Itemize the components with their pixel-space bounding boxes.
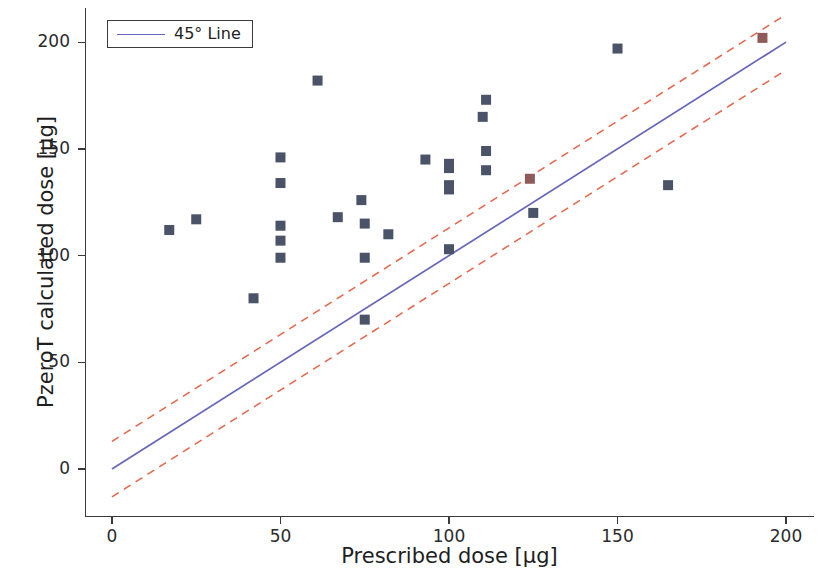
x-tick-label: 0: [77, 528, 147, 545]
data-point-marker: [528, 208, 538, 218]
data-point-marker: [360, 219, 370, 229]
data-point-marker: [164, 225, 174, 235]
data-point-marker: [444, 163, 454, 173]
x-axis-label: Prescribed dose [µg]: [85, 544, 814, 568]
data-point-marker: [275, 253, 285, 263]
y-tick-mark: [78, 362, 85, 363]
x-tick-label: 200: [751, 528, 818, 545]
data-point-marker: [333, 212, 343, 222]
data-point-marker: [444, 184, 454, 194]
data-point-marker: [275, 236, 285, 246]
trend-lines-group: [112, 14, 786, 496]
legend-line-swatch: [117, 34, 165, 35]
legend-box: 45° Line: [107, 20, 253, 48]
data-point-marker: [383, 229, 393, 239]
data-point-marker: [360, 315, 370, 325]
legend-item-label: 45° Line: [174, 26, 241, 42]
scatter-chart-figure: 050100150200 050100150200 PzeroT calcula…: [0, 0, 818, 569]
y-tick-mark: [78, 255, 85, 256]
data-point-marker: [249, 293, 259, 303]
y-tick-mark: [78, 148, 85, 149]
x-tick-mark: [111, 517, 112, 524]
data-point-marker: [275, 152, 285, 162]
data-points-group: [164, 33, 767, 325]
y-axis-spine: [85, 8, 86, 517]
tolerance-band-line: [112, 70, 786, 497]
identity-line: [112, 42, 786, 469]
data-point-marker: [757, 33, 767, 43]
x-tick-label: 150: [583, 528, 653, 545]
data-point-marker: [481, 95, 491, 105]
y-tick-mark: [78, 42, 85, 43]
data-point-marker: [313, 76, 323, 86]
x-tick-mark: [617, 517, 618, 524]
tolerance-band-line: [112, 14, 786, 441]
data-point-marker: [360, 253, 370, 263]
data-point-marker: [663, 180, 673, 190]
data-point-marker: [275, 221, 285, 231]
x-tick-label: 50: [245, 528, 315, 545]
x-tick-mark: [280, 517, 281, 524]
data-point-marker: [420, 155, 430, 165]
data-point-marker: [444, 244, 454, 254]
data-point-marker: [613, 44, 623, 54]
x-tick-mark: [785, 517, 786, 524]
plot-area: [85, 8, 813, 516]
data-point-marker: [191, 214, 201, 224]
y-tick-label: 200: [10, 33, 70, 50]
x-tick-label: 100: [414, 528, 484, 545]
data-point-marker: [481, 165, 491, 175]
x-tick-mark: [448, 517, 449, 524]
data-point-marker: [275, 178, 285, 188]
data-point-marker: [478, 112, 488, 122]
y-axis-label: PzeroT calculated dose [µg]: [34, 52, 58, 472]
data-point-marker: [525, 174, 535, 184]
data-point-marker: [356, 195, 366, 205]
plot-canvas: [85, 8, 813, 516]
y-tick-mark: [78, 468, 85, 469]
data-point-marker: [481, 146, 491, 156]
